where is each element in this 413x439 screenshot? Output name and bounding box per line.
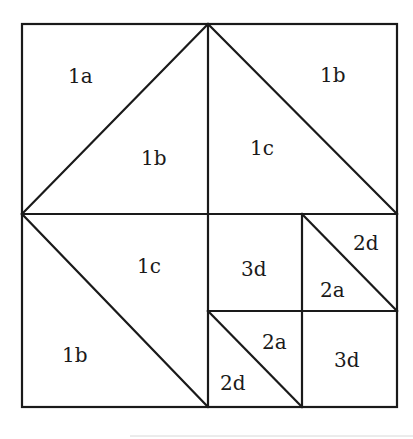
quilt-block-diagram: 1a1b1b1c1c1b3d2d2a2a2d3d bbox=[0, 0, 413, 439]
piece-labels: 1a1b1b1c1c1b3d2d2a2a2d3d bbox=[62, 63, 379, 395]
piece-label: 1b bbox=[141, 146, 167, 170]
piece-label: 1b bbox=[62, 343, 88, 367]
diag-small-upper-right bbox=[302, 214, 397, 311]
piece-label: 2a bbox=[320, 278, 345, 302]
piece-label: 1b bbox=[320, 63, 346, 87]
piece-label: 2d bbox=[220, 371, 246, 395]
diag-bottom-left bbox=[22, 214, 208, 407]
piece-label: 3d bbox=[241, 257, 267, 281]
piece-label: 3d bbox=[334, 348, 360, 372]
piece-label: 2a bbox=[262, 330, 287, 354]
piece-label: 1c bbox=[137, 254, 161, 278]
piece-label: 1c bbox=[250, 136, 274, 160]
piece-label: 1a bbox=[68, 64, 93, 88]
diag-top-right bbox=[208, 24, 397, 214]
diag-top-left bbox=[22, 24, 208, 214]
piece-label: 2d bbox=[353, 231, 379, 255]
